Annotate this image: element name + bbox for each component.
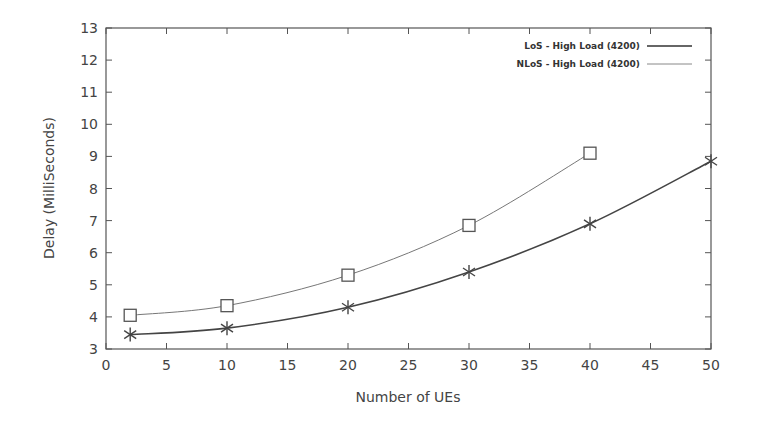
legend-label: LoS - High Load (4200) xyxy=(524,41,640,51)
y-tick-label: 8 xyxy=(89,181,98,197)
square-marker xyxy=(463,219,475,231)
x-axis-title: Number of UEs xyxy=(355,389,460,405)
x-tick-label: 5 xyxy=(162,357,171,373)
y-tick-label: 4 xyxy=(89,309,98,325)
x-tick-label: 35 xyxy=(521,357,539,373)
x-tick-label: 0 xyxy=(102,357,111,373)
x-tick-label: 15 xyxy=(279,357,297,373)
y-tick-label: 9 xyxy=(89,148,98,164)
x-tick-label: 20 xyxy=(339,357,357,373)
y-tick-label: 12 xyxy=(80,52,98,68)
y-tick-label: 5 xyxy=(89,277,98,293)
x-tick-label: 40 xyxy=(581,357,599,373)
asterisk-marker xyxy=(584,217,596,231)
y-axis-title: Delay (MilliSeconds) xyxy=(41,117,57,259)
y-tick-label: 7 xyxy=(89,213,98,229)
x-tick-label: 25 xyxy=(400,357,418,373)
axis-ticks: 05101520253035404550345678910111213 xyxy=(80,20,720,373)
line-chart: 05101520253035404550345678910111213 LoS … xyxy=(0,0,760,427)
y-tick-label: 3 xyxy=(89,341,98,357)
x-tick-label: 30 xyxy=(460,357,478,373)
square-marker xyxy=(124,309,136,321)
x-tick-label: 50 xyxy=(702,357,720,373)
x-tick-label: 10 xyxy=(218,357,236,373)
square-marker xyxy=(342,269,354,281)
series-nlos xyxy=(124,147,596,321)
y-tick-label: 6 xyxy=(89,245,98,261)
square-marker xyxy=(584,147,596,159)
series-line xyxy=(130,153,590,315)
asterisk-marker xyxy=(463,265,475,279)
square-marker xyxy=(221,300,233,312)
plot-frame xyxy=(106,28,711,349)
legend-label: NLoS - High Load (4200) xyxy=(517,59,640,69)
legend: LoS - High Load (4200)NLoS - High Load (… xyxy=(517,41,692,69)
y-tick-label: 10 xyxy=(80,116,98,132)
y-tick-label: 11 xyxy=(80,84,98,100)
series-group xyxy=(124,147,717,341)
y-tick-label: 13 xyxy=(80,20,98,36)
asterisk-marker xyxy=(342,300,354,314)
x-tick-label: 45 xyxy=(642,357,660,373)
